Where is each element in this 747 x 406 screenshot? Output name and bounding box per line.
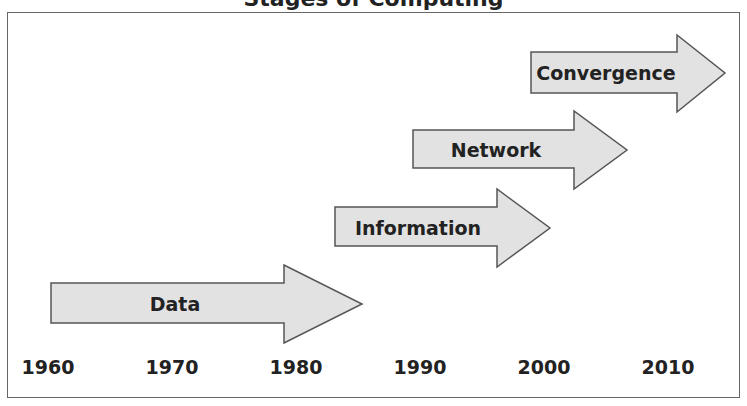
year-label-1970: 1970 [146, 356, 199, 378]
year-label-1990: 1990 [394, 356, 447, 378]
year-label-2000: 2000 [518, 356, 571, 378]
year-label-2010: 2010 [642, 356, 695, 378]
year-label-1960: 1960 [22, 356, 75, 378]
stage-arrow-network: Network [413, 111, 627, 189]
stage-arrows: Data Information Network Convergence [0, 0, 747, 406]
stage-arrow-convergence: Convergence [531, 35, 725, 112]
stage-label: Convergence [536, 62, 675, 84]
year-label-1980: 1980 [270, 356, 323, 378]
stage-label: Network [451, 139, 542, 161]
stage-label: Information [355, 217, 481, 239]
stage-label: Data [150, 293, 201, 315]
stage-arrow-information: Information [335, 189, 550, 267]
stage-arrow-data: Data [51, 265, 362, 343]
arrow-right-icon [51, 265, 362, 343]
